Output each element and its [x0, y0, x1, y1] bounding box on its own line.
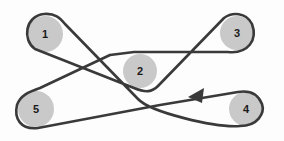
- pulley-2-label: 2: [137, 65, 143, 77]
- pulley-1-label: 1: [42, 28, 48, 40]
- pulley-5-label: 5: [33, 103, 39, 115]
- diagram-canvas: 1 2 3 4 5: [0, 0, 284, 141]
- pulley-3-label: 3: [234, 27, 240, 39]
- pulley-4-label: 4: [243, 103, 250, 115]
- belt-routing-diagram: 1 2 3 4 5: [0, 0, 284, 141]
